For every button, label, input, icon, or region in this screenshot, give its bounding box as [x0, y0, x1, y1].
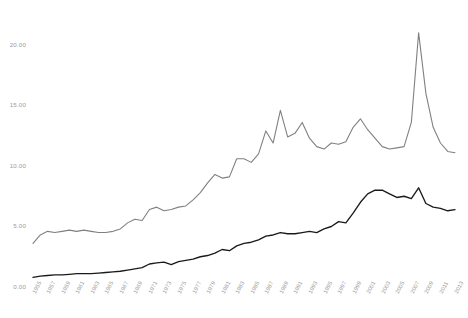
x-tick-label: 1987: [264, 281, 275, 295]
x-tick-label: 1961: [75, 281, 86, 295]
x-tick-label: 1969: [133, 281, 144, 295]
x-tick-label: 1963: [90, 281, 101, 295]
x-tick-label: 1997: [337, 281, 348, 295]
x-tick-label: 1973: [162, 281, 173, 295]
x-tick-label: 1989: [279, 281, 290, 295]
x-tick-label: 2013: [454, 281, 465, 295]
x-tick-label: 2005: [395, 281, 406, 295]
x-tick-label: 1975: [177, 281, 188, 295]
x-tick-label: 2003: [381, 281, 392, 295]
x-tick-label: 1959: [61, 281, 72, 295]
x-tick-label: 1977: [192, 281, 203, 295]
x-tick-label: 2001: [366, 281, 377, 295]
x-tick-label: 1981: [221, 281, 232, 295]
x-tick-label: 2011: [439, 281, 450, 295]
x-tick-label: 1955: [32, 281, 43, 295]
line-chart: 0.005.0010.0015.0020.00 1955195719591961…: [0, 0, 468, 318]
x-tick-label: 1971: [148, 281, 159, 295]
x-tick-label: 2009: [424, 281, 435, 295]
x-tick-label: 1957: [46, 281, 57, 295]
x-tick-label: 1995: [323, 281, 334, 295]
x-tick-label: 1993: [308, 281, 319, 295]
x-tick-label: 1967: [119, 281, 130, 295]
x-tick-label: 1979: [206, 281, 217, 295]
x-tick-label: 1983: [235, 281, 246, 295]
x-tick-label: 1965: [104, 281, 115, 295]
x-tick-label: 1991: [293, 281, 304, 295]
x-tick-label: 2007: [410, 281, 421, 295]
x-tick-label: 1999: [352, 281, 363, 295]
x-axis: 1955195719591961196319651967196919711973…: [0, 0, 468, 318]
x-tick-label: 1985: [250, 281, 261, 295]
